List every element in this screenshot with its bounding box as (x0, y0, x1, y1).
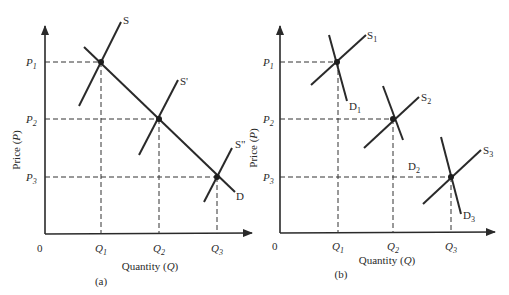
label-s-prime: S' (180, 75, 188, 87)
equilibrium-point-2 (156, 116, 162, 122)
equilibrium-point-1 (334, 59, 340, 65)
tick-q2: Q2 (153, 242, 165, 257)
tick-p3: P3 (25, 171, 37, 186)
tick-p1: P1 (25, 56, 37, 71)
label-s-double-prime: S" (235, 138, 246, 150)
panel-caption-b: (b) (335, 268, 348, 281)
label-s1: S1 (367, 29, 377, 44)
tick-p1: P1 (262, 56, 274, 71)
origin-label: 0 (272, 240, 278, 252)
equilibrium-point-1 (98, 59, 104, 65)
label-s: S (123, 14, 129, 26)
tick-q3: Q3 (445, 240, 457, 255)
panel-caption-a: (a) (95, 275, 108, 288)
demand-curve-d1 (329, 35, 347, 101)
tick-q3: Q3 (211, 242, 223, 257)
tick-p2: P2 (262, 113, 274, 128)
label-d2: D2 (408, 160, 420, 175)
tick-q1: Q1 (95, 242, 107, 257)
equilibrium-point-2 (390, 116, 396, 122)
label-s3: S3 (483, 144, 493, 159)
x-axis (45, 233, 252, 234)
x-axis-title: Quantity (Q) (359, 254, 416, 267)
x-axis (280, 232, 495, 233)
y-axis-title: Price (P) (10, 130, 23, 170)
label-d1: D1 (349, 100, 361, 115)
panel-a: S S' S" D P1 P2 P3 0 Q1 Q2 Q3 Price (P) … (10, 14, 252, 288)
label-d: D (236, 190, 244, 202)
label-d3: D3 (463, 209, 475, 224)
guide-lines (45, 62, 217, 234)
y-axis-title: Price (P) (247, 128, 260, 168)
tick-p2: P2 (25, 113, 37, 128)
supply-demand-diagram: S S' S" D P1 P2 P3 0 Q1 Q2 Q3 Price (P) … (0, 0, 509, 295)
tick-q1: Q1 (332, 240, 344, 255)
x-axis-title: Quantity (Q) (122, 260, 179, 273)
tick-q2: Q2 (387, 240, 399, 255)
equilibrium-point-3 (214, 174, 220, 180)
origin-label: 0 (37, 242, 43, 254)
panel-b: S1 D1 S2 D2 S3 D3 P1 P2 P3 0 Q1 Q2 Q3 Pr… (247, 26, 495, 281)
supply-curve-s2 (364, 97, 419, 148)
label-s2: S2 (421, 91, 431, 106)
tick-p3: P3 (262, 171, 274, 186)
equilibrium-point-3 (448, 174, 454, 180)
